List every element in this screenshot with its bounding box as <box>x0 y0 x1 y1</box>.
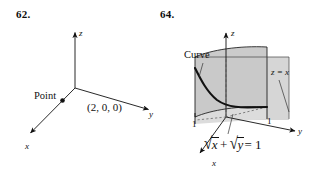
tick-label-y-one: 1 <box>267 117 272 126</box>
figure-64: 64. <box>155 0 319 179</box>
tick-label-x-one: 1 <box>192 120 197 129</box>
radical-x: √x <box>203 137 219 152</box>
plane-equation-label: z = x <box>271 68 289 77</box>
y-axis-label: y <box>149 110 153 119</box>
point-annotation-label: Point <box>34 91 56 102</box>
point-coordinates-label: (2, 0, 0) <box>87 102 122 113</box>
curve-annotation-label: Curve <box>184 50 210 61</box>
x-axis-label: x <box>25 142 29 151</box>
radical-y: √y <box>229 137 245 152</box>
plotted-point <box>60 98 65 103</box>
radical-x-argument: x <box>211 137 219 151</box>
x-axis-label: x <box>212 159 216 168</box>
z-axis-label: z <box>79 29 83 38</box>
z-axis-label: z <box>231 29 235 38</box>
figure-62-axes-drawing <box>0 0 160 179</box>
plus-operator: + <box>219 137 229 152</box>
figure-62: 62. Point (2, 0, 0) z y x <box>0 0 160 179</box>
surface-equation-label: √x+√y= 1 <box>203 137 261 152</box>
radical-y-argument: y <box>237 137 245 151</box>
equation-right-hand-side: = 1 <box>244 137 261 152</box>
y-axis-label: y <box>298 127 302 136</box>
